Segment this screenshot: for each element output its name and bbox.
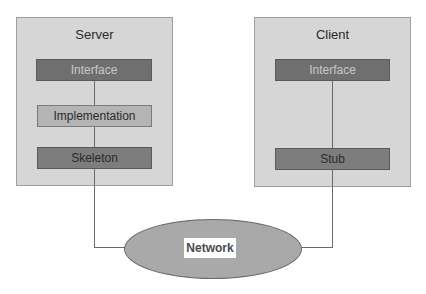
server-interface-box: Interface: [36, 59, 152, 81]
server-skeleton-label: Skeleton: [71, 151, 118, 165]
server-interface-label: Interface: [71, 63, 118, 77]
network-label: Network: [184, 238, 236, 258]
server-implementation-box: Implementation: [37, 105, 152, 127]
server-implementation-label: Implementation: [53, 109, 135, 123]
client-to-network-horizontal: [300, 247, 333, 248]
server-interface-to-implementation-line: [94, 81, 95, 105]
client-interface-to-stub-line: [332, 81, 333, 148]
client-interface-box: Interface: [275, 59, 390, 81]
server-to-network-horizontal: [94, 247, 125, 248]
client-stub-to-bottom-line: [332, 170, 333, 187]
server-to-network-vertical: [94, 186, 95, 248]
client-stub-box: Stub: [275, 148, 390, 170]
server-skeleton-box: Skeleton: [37, 147, 152, 169]
client-title: Client: [255, 27, 410, 42]
server-skeleton-to-bottom-line: [94, 169, 95, 186]
server-implementation-to-skeleton-line: [94, 127, 95, 147]
client-to-network-vertical: [332, 187, 333, 248]
client-stub-label: Stub: [320, 152, 345, 166]
client-interface-label: Interface: [309, 63, 356, 77]
server-title: Server: [17, 27, 172, 42]
